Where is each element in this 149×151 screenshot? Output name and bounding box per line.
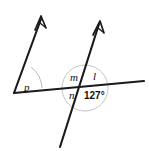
angle-label-n: n bbox=[69, 90, 75, 101]
geometry-figure: p m l n 127° bbox=[0, 0, 149, 151]
angle-arc-p bbox=[31, 67, 42, 88]
angle-label-m: m bbox=[70, 72, 78, 83]
angle-measure-label: 127° bbox=[84, 91, 105, 101]
angle-label-p: p bbox=[24, 82, 30, 93]
angle-label-l: l bbox=[93, 71, 96, 82]
